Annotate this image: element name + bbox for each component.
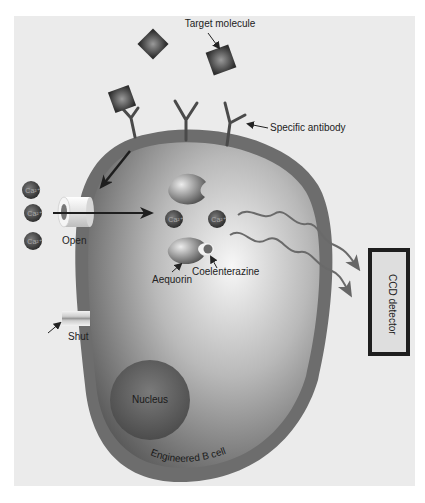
target-molecule-label: Target molecule xyxy=(185,18,256,29)
ccd-detector: CCD detector xyxy=(370,250,408,354)
svg-text:Ca²⁺: Ca²⁺ xyxy=(211,216,226,223)
svg-text:Ca²⁺: Ca²⁺ xyxy=(168,216,183,223)
svg-text:Ca²⁺: Ca²⁺ xyxy=(27,210,42,217)
shut-channel-label: Shut xyxy=(68,331,89,342)
open-channel-label: Open xyxy=(62,235,86,246)
nucleus: Nucleus xyxy=(110,360,190,440)
aequorin-label: Aequorin xyxy=(152,274,192,285)
svg-text:Ca²⁺: Ca²⁺ xyxy=(27,238,42,245)
diagram-canvas: Nucleus Engineered B cell Target molecul… xyxy=(0,0,425,503)
calcium-channel-shut xyxy=(62,311,90,326)
coelenterazine-label: Coelenterazine xyxy=(192,266,260,277)
svg-text:Ca²⁺: Ca²⁺ xyxy=(25,187,40,194)
specific-antibody-label: Specific antibody xyxy=(270,122,346,133)
ccd-detector-label: CCD detector xyxy=(387,274,398,335)
nucleus-label: Nucleus xyxy=(132,394,168,405)
